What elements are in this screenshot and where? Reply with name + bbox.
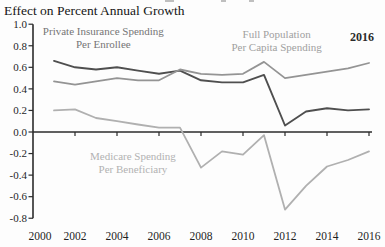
x-tick-label: 2012	[274, 230, 297, 242]
y-tick-label: 0.2	[13, 104, 27, 116]
x-tick-label: 2016	[358, 230, 381, 242]
x-tick-label: 2002	[64, 230, 87, 242]
cropped-text-artifact	[165, 0, 174, 2]
x-tick-label: 2014	[316, 230, 339, 242]
y-tick-label: 1.0	[13, 18, 27, 30]
y-tick-label: 0.4	[13, 83, 27, 95]
label-full-population: Full PopulationPer Capita Spending	[231, 28, 322, 53]
y-tick-label: 0.8	[13, 40, 27, 52]
y-tick-label: -0.6	[10, 190, 28, 202]
label-private-insurance: Private Insurance SpendingPer Enrollee	[43, 25, 164, 50]
x-tick-label: 2000	[29, 230, 52, 242]
line-chart-plot: 1.00.80.60.40.20.0-0.2-0.4-0.6-0.8200020…	[0, 0, 385, 247]
y-tick-label: 0.0	[13, 126, 27, 138]
cropped-text-artifact	[249, 0, 254, 2]
y-tick-label: -0.2	[10, 147, 27, 159]
y-tick-label: 0.6	[13, 61, 27, 73]
series-line-private-insurance-spending-per-enrollee	[54, 61, 369, 126]
y-tick-label: -0.8	[10, 212, 28, 224]
x-tick-label: 2006	[148, 230, 171, 242]
growth-chart: Effect on Percent Annual Growth 1.00.80.…	[0, 0, 385, 247]
x-tick-label: 2008	[190, 230, 213, 242]
x-tick-label: 2004	[106, 230, 129, 242]
endpoint-year-label: 2016	[350, 30, 374, 44]
x-tick-label: 2010	[232, 230, 255, 242]
chart-title: Effect on Percent Annual Growth	[4, 3, 184, 19]
label-medicare: Medicare SpendingPer Beneficiary	[90, 150, 176, 175]
y-tick-label: -0.4	[10, 169, 28, 181]
cropped-text-artifact	[221, 0, 226, 2]
